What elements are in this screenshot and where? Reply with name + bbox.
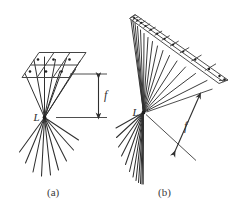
panel-b-lower-rays — [116, 113, 144, 185]
panel-a-source-label: L — [33, 111, 40, 123]
panel-a-caption: (a) — [47, 186, 59, 198]
panel-b-source-label: L — [132, 106, 139, 118]
panel-b: f L — [116, 15, 228, 185]
figure-container: f L — [0, 0, 234, 212]
diagram-canvas: f L — [0, 0, 234, 212]
panel-b-caption: (b) — [158, 186, 171, 198]
panel-a-f-label: f — [104, 88, 109, 102]
panel-a-lower-rays — [20, 118, 79, 177]
panel-a-reference-lines — [56, 74, 107, 118]
panel-a-upper-rays — [25, 57, 80, 118]
panel-b-source-point — [142, 111, 146, 115]
panel-b-reference-lines — [146, 89, 213, 161]
panel-a-source-point — [43, 116, 47, 120]
panel-a: f L — [20, 53, 110, 177]
